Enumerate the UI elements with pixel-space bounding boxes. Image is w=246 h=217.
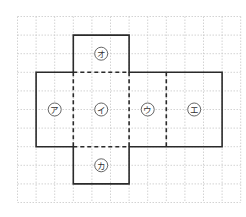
face-u-label: ウ (143, 105, 152, 115)
face-ka-label: カ (97, 161, 106, 171)
face-u: ウ (141, 103, 154, 116)
face-a-label: ア (50, 105, 59, 115)
face-ka: カ (95, 159, 108, 172)
face-o: オ (95, 47, 108, 60)
face-e: エ (188, 103, 201, 116)
face-e-label: エ (190, 105, 199, 115)
face-i-label: イ (97, 105, 106, 115)
cube-net-diagram: ア イ ウ エ オ カ (0, 0, 246, 217)
face-i: イ (95, 103, 108, 116)
face-a: ア (48, 103, 61, 116)
face-o-label: オ (97, 49, 106, 59)
